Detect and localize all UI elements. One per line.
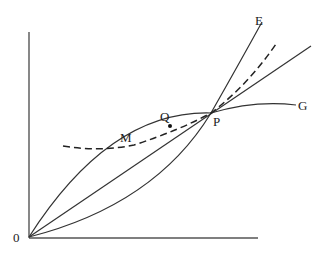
label-E: E xyxy=(255,13,263,28)
origin-label: 0 xyxy=(13,230,20,245)
curve-E xyxy=(29,22,262,237)
label-P: P xyxy=(213,114,220,129)
label-M: M xyxy=(120,130,132,145)
ray-line xyxy=(29,46,311,237)
label-G: G xyxy=(298,98,307,113)
diagram-canvas: 0 E G P Q M xyxy=(0,0,329,255)
label-Q: Q xyxy=(160,109,170,124)
dashed-curve xyxy=(63,44,276,149)
point-Q-marker xyxy=(168,124,172,128)
